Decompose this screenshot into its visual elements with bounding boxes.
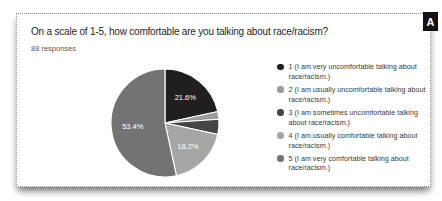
legend-item-5: 5 (I am very comfortable talking about r… [277, 154, 433, 174]
legend-item-3: 3 (I am sometimes uncomfortable talking … [277, 108, 433, 128]
figure-stage: A On a scale of 1-5, how comfortable are… [0, 0, 442, 201]
panel-label-badge: A [423, 12, 438, 31]
legend-color-dot-1 [277, 64, 284, 71]
legend-color-dot-5 [277, 155, 284, 162]
question-title: On a scale of 1-5, how comfortable are y… [31, 26, 411, 37]
legend-label-1: 1 (I am very uncomfortable talking about… [289, 62, 434, 82]
legend-item-1: 1 (I am very uncomfortable talking about… [277, 62, 433, 82]
pie-slice-percent-label: 21.6% [175, 93, 197, 102]
legend-item-4: 4 (I am usually comfortable talking abou… [277, 131, 433, 151]
legend-label-3: 3 (I am sometimes uncomfortable talking … [289, 108, 434, 128]
chart-legend: 1 (I am very uncomfortable talking about… [277, 62, 433, 173]
legend-color-dot-3 [277, 109, 284, 116]
form-results-card: On a scale of 1-5, how comfortable are y… [16, 13, 431, 187]
pie-slice-percent-label: 53.4% [122, 122, 144, 131]
legend-color-dot-2 [277, 86, 284, 93]
legend-item-2: 2 (I am usually uncomfortable talking ab… [277, 85, 433, 105]
pie-chart: 21.6%18.2%53.4% [109, 67, 221, 179]
legend-label-5: 5 (I am very comfortable talking about r… [289, 154, 434, 174]
legend-label-2: 2 (I am usually uncomfortable talking ab… [289, 85, 434, 105]
legend-label-4: 4 (I am usually comfortable talking abou… [289, 131, 434, 151]
legend-color-dot-4 [277, 132, 284, 139]
responses-count: 88 responses [31, 44, 76, 53]
pie-slice-percent-label: 18.2% [177, 142, 199, 151]
